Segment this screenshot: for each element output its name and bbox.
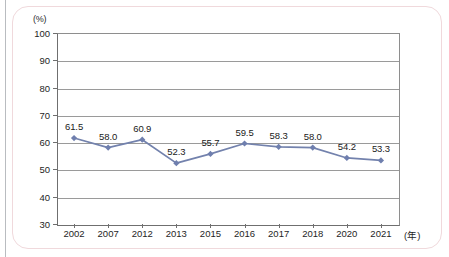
data-point-marker[interactable]: [276, 144, 282, 150]
data-point-label: 52.3: [167, 146, 185, 157]
x-axis-unit-label: (年): [404, 228, 420, 242]
data-point-marker[interactable]: [71, 135, 77, 141]
data-point-label: 59.5: [236, 127, 254, 138]
data-point-label: 55.7: [201, 137, 219, 148]
screenshot-root: (%) 10090807060504030 200220072012201320…: [0, 0, 449, 257]
line-chart: (%) 10090807060504030 200220072012201320…: [0, 0, 449, 257]
data-point-marker[interactable]: [207, 151, 213, 157]
data-point-marker[interactable]: [378, 157, 384, 163]
data-point-marker[interactable]: [105, 145, 111, 151]
data-point-label: 61.5: [65, 121, 83, 132]
data-point-label: 60.9: [133, 123, 151, 134]
data-point-label: 58.3: [270, 130, 288, 141]
data-point-label: 58.0: [99, 131, 117, 142]
data-point-label: 58.0: [304, 131, 322, 142]
data-point-label: 54.2: [338, 141, 356, 152]
data-point-label: 53.3: [372, 143, 390, 154]
data-point-marker[interactable]: [241, 140, 247, 146]
series-line: [74, 138, 381, 163]
data-point-marker[interactable]: [310, 145, 316, 151]
data-point-marker[interactable]: [344, 155, 350, 161]
